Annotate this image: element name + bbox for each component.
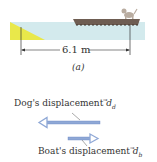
boat-displacement-label: Boat's displacement ⃗db: [38, 146, 142, 158]
panel-label: (a): [72, 62, 84, 72]
boat-displacement-arrow: [68, 134, 98, 143]
boat-vector-symbol: ⃗db: [133, 146, 143, 156]
dog-displacement-label: Dog's displacement ⃗dd: [14, 98, 116, 110]
distance-label: 6.1 m: [62, 44, 91, 55]
dog-icon: [122, 9, 138, 20]
boat: [73, 19, 140, 25]
diagram-canvas: [0, 0, 157, 162]
dog-vector-symbol: ⃗dd: [106, 98, 116, 108]
dog-displacement-arrow: [39, 118, 100, 128]
